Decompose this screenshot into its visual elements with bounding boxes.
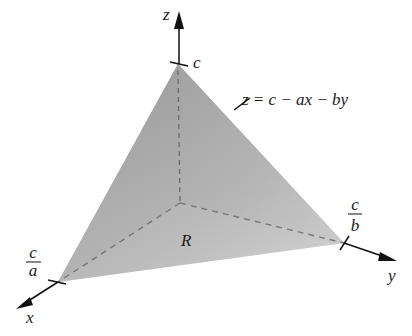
y-axis-arrow-icon bbox=[378, 252, 397, 261]
x-axis-label: x bbox=[25, 308, 34, 327]
region-label: R bbox=[180, 231, 192, 250]
y-intercept-numerator: c bbox=[351, 195, 359, 214]
x-intercept-numerator: c bbox=[29, 243, 37, 262]
z-intercept-label: c bbox=[193, 53, 201, 72]
tetrahedron-diagram: z c x y c a c b z = c − ax − by R bbox=[0, 0, 412, 336]
z-axis-label: z bbox=[162, 5, 170, 24]
y-intercept-denominator: b bbox=[351, 216, 360, 235]
surface-equation-label: z = c − ax − by bbox=[241, 90, 349, 109]
x-intercept-denominator: a bbox=[29, 261, 38, 280]
z-axis-arrow-icon bbox=[174, 11, 184, 29]
y-axis-label: y bbox=[386, 266, 396, 285]
